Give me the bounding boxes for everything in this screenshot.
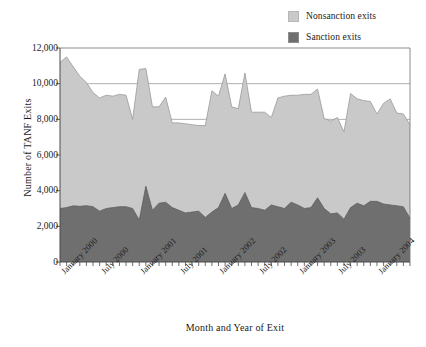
- x-axis-title: Month and Year of Exit: [60, 322, 410, 333]
- x-axis-tick-label: January 2000: [59, 236, 99, 276]
- x-axis-tick-label: January 2001: [138, 236, 178, 276]
- chart-figure: Nonsanction exits Sanction exits 02,0004…: [0, 0, 426, 347]
- x-axis-tick-label: July 2002: [257, 245, 289, 277]
- x-axis-tick-label: July 2000: [99, 245, 131, 277]
- x-axis-tick-label: July 2001: [178, 245, 210, 277]
- x-axis-tick-label: January 2004: [376, 236, 416, 276]
- x-axis-tick-label: January 2002: [217, 236, 257, 276]
- x-axis-tick-labels: January 2000July 2000January 2001July 20…: [0, 0, 426, 347]
- x-axis-tick-label: July 2003: [336, 245, 368, 277]
- y-axis-title: Number of TANF Exits: [22, 68, 33, 228]
- x-axis-tick-label: January 2003: [297, 236, 337, 276]
